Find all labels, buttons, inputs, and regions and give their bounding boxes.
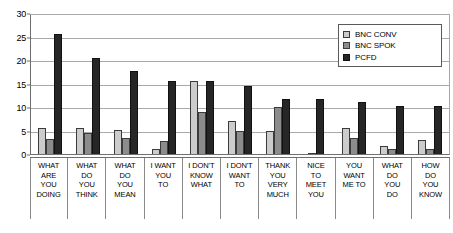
- bar: [342, 128, 350, 154]
- bar: [316, 99, 324, 154]
- category-label-line: YOU: [117, 180, 133, 190]
- bar: [282, 99, 290, 154]
- bar: [92, 58, 100, 154]
- bar: [418, 140, 426, 154]
- bar: [54, 34, 62, 154]
- bar: [236, 131, 244, 155]
- category-label-line: WANT: [229, 171, 250, 181]
- category-label-line: THINK: [76, 190, 98, 200]
- category-label-line: WANT: [343, 171, 364, 181]
- category-label-line: NICE: [307, 161, 325, 171]
- category-label-line: YOU: [155, 171, 171, 181]
- legend-swatch-icon-bnc-spok: [343, 42, 350, 49]
- category-label: WHATDOYOUDO: [374, 158, 412, 219]
- bar: [122, 138, 130, 154]
- bar: [152, 149, 160, 154]
- y-tick-label: 5: [21, 127, 26, 136]
- category-label: WHATDOYOUMEAN: [106, 158, 144, 219]
- bar: [130, 71, 138, 154]
- y-tick-label: 10: [16, 104, 26, 113]
- category-label-line: KNOW: [419, 190, 442, 200]
- category-label-line: TO: [158, 180, 168, 190]
- category-label-line: MEAN: [114, 190, 135, 200]
- category-label-line: TO: [311, 171, 321, 181]
- category-label: YOUWANTME TO: [336, 158, 374, 219]
- category-label-line: YOU: [346, 161, 362, 171]
- bar-chart: 302520151050 WHATAREYOUDOINGWHATDOYOUTHI…: [0, 0, 453, 233]
- category-label: WHATDOYOUTHINK: [68, 158, 106, 219]
- y-tick-label: 15: [16, 80, 26, 89]
- bar: [396, 106, 404, 154]
- legend-swatch-icon-pcfd: [343, 54, 350, 61]
- legend-item-bnc-conv: BNC CONV: [343, 29, 437, 40]
- category-label-line: ME TO: [343, 180, 366, 190]
- category-label-line: ARE: [41, 171, 56, 181]
- category-label-line: DO: [119, 171, 130, 181]
- category-label-line: YOU: [384, 180, 400, 190]
- legend-label-bnc-spok: BNC SPOK: [355, 41, 396, 50]
- bar-group: [69, 15, 107, 154]
- y-axis: 302520151050: [0, 0, 30, 233]
- bar: [358, 102, 366, 154]
- category-label: I DON'TKNOWWHAT: [183, 158, 221, 219]
- legend-item-bnc-spok: BNC SPOK: [343, 40, 437, 51]
- category-label-line: DO: [81, 171, 92, 181]
- y-tick-label: 20: [16, 57, 26, 66]
- bar: [308, 153, 316, 154]
- bar: [168, 81, 176, 154]
- bar-group: [297, 15, 335, 154]
- category-label-line: I DON'T: [226, 161, 252, 171]
- category-label-line: YOU: [308, 190, 324, 200]
- category-label-line: DOING: [37, 190, 61, 200]
- category-label-line: HOW: [421, 161, 439, 171]
- bar-group: [145, 15, 183, 154]
- category-label-line: WHAT: [114, 161, 135, 171]
- bar: [266, 131, 274, 155]
- category-label-line: WHAT: [382, 161, 403, 171]
- legend-label-bnc-conv: BNC CONV: [355, 30, 396, 39]
- bar: [350, 138, 358, 154]
- category-label: HOWDOYOUKNOW: [412, 158, 450, 219]
- legend-label-pcfd: PCFD: [355, 53, 376, 62]
- bar: [388, 149, 396, 154]
- category-label-line: WHAT: [191, 180, 212, 190]
- category-label-line: MEET: [306, 180, 326, 190]
- legend: BNC CONV BNC SPOK PCFD: [338, 24, 442, 67]
- category-label-line: I DON'T: [188, 161, 214, 171]
- category-label: I DON'TWANTTO: [221, 158, 259, 219]
- category-label-line: YOU: [270, 171, 286, 181]
- bar: [274, 107, 282, 154]
- category-label-line: WHAT: [38, 161, 59, 171]
- y-tick-label: 0: [21, 151, 26, 160]
- bar: [114, 130, 122, 154]
- bar-group: [221, 15, 259, 154]
- legend-item-pcfd: PCFD: [343, 52, 437, 63]
- category-label: THANKYOUVERYMUCH: [259, 158, 297, 219]
- category-label-line: I WANT: [150, 161, 175, 171]
- category-label: NICETOMEETYOU: [297, 158, 335, 219]
- category-label: WHATAREYOUDOING: [30, 158, 68, 219]
- category-label-line: THANK: [265, 161, 290, 171]
- category-label-line: WHAT: [76, 161, 97, 171]
- category-label-line: DO: [425, 171, 436, 181]
- bar-group: [259, 15, 297, 154]
- bar: [76, 128, 84, 154]
- bar: [46, 139, 54, 154]
- bar: [38, 128, 46, 154]
- bar-group: [183, 15, 221, 154]
- bar-group: [107, 15, 145, 154]
- bar: [198, 112, 206, 154]
- legend-swatch-icon-bnc-conv: [343, 31, 350, 38]
- y-tick-label: 25: [16, 33, 26, 42]
- bar: [434, 106, 442, 154]
- y-tick-label: 30: [16, 10, 26, 19]
- category-label-line: KNOW: [190, 171, 213, 181]
- category-label-line: TO: [234, 180, 244, 190]
- bar: [426, 149, 434, 154]
- category-label: I WANTYOUTO: [145, 158, 183, 219]
- category-label-line: YOU: [41, 180, 57, 190]
- bar: [84, 133, 92, 154]
- bar: [190, 81, 198, 154]
- category-axis: WHATAREYOUDOINGWHATDOYOUTHINKWHATDOYOUME…: [30, 157, 450, 219]
- category-label-line: MUCH: [267, 190, 289, 200]
